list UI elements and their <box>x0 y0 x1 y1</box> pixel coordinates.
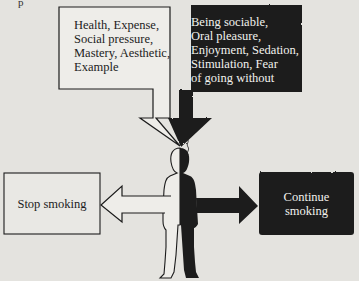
continue-arrow <box>196 186 258 224</box>
stop-smoking-label: Stop smoking <box>4 197 100 211</box>
stop-arrow <box>101 186 171 222</box>
corner-mark: p <box>18 0 24 8</box>
continue-smoking-label: Continue smoking <box>259 190 354 218</box>
diagram-canvas: p <box>0 0 359 281</box>
reasons-to-continue-text: Being sociable, Oral pleasure, Enjoyment… <box>191 15 303 85</box>
reasons-to-stop-text: Health, Expense, Social pressure, Master… <box>74 18 174 74</box>
